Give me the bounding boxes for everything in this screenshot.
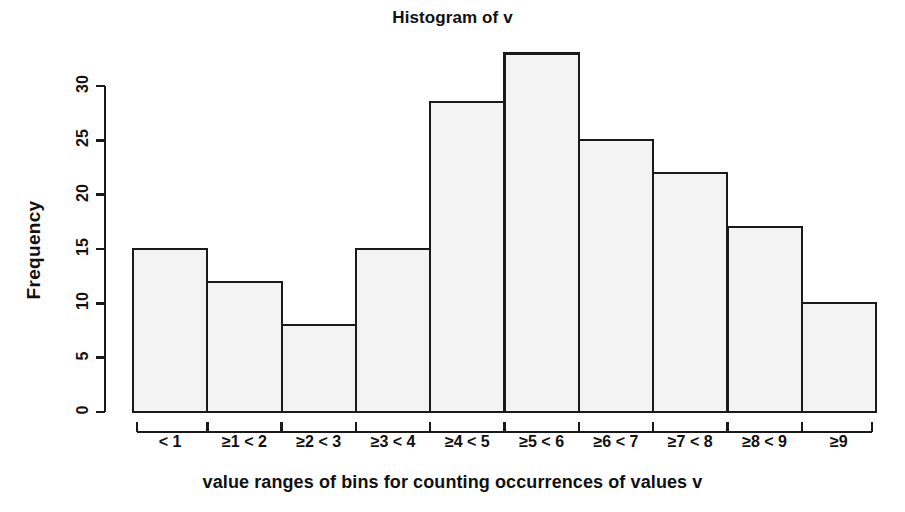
x-axis-tick-label: ≥8 < 9 [727, 433, 801, 451]
x-axis-tick-label: ≥3 < 4 [356, 433, 430, 451]
histogram-figure: Histogram of v Frequency 051015202530 < … [0, 0, 905, 512]
histogram-bar [282, 325, 356, 412]
x-axis [137, 422, 872, 432]
x-axis-tick-label: ≥1 < 2 [207, 433, 281, 451]
histogram-bar [207, 282, 281, 412]
histogram-bar [133, 249, 207, 412]
x-axis-tick-label: ≥5 < 6 [505, 433, 579, 451]
histogram-bar [579, 140, 653, 412]
x-axis-tick-label: ≥7 < 8 [653, 433, 727, 451]
x-axis-tick-label: ≥6 < 7 [579, 433, 653, 451]
histogram-bar [802, 303, 876, 412]
x-axis-tick-label: ≥4 < 5 [430, 433, 504, 451]
x-axis-tick-label: ≥9 [802, 433, 876, 451]
histogram-bar [356, 249, 430, 412]
histogram-bar [505, 53, 579, 412]
bars-group [132, 53, 877, 412]
x-axis-tick-label: ≥2 < 3 [282, 433, 356, 451]
histogram-bar [653, 173, 727, 412]
histogram-bar [727, 227, 801, 412]
histogram-bar [430, 102, 504, 412]
x-axis-tick-label: < 1 [133, 433, 207, 451]
y-axis [96, 86, 105, 412]
x-axis-label: value ranges of bins for counting occurr… [0, 472, 905, 493]
